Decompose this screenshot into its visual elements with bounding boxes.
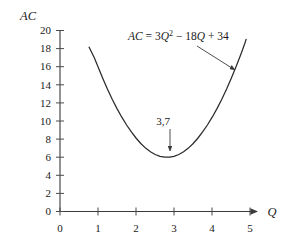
vertex-label: 3,7	[156, 115, 170, 127]
y-tick-label: 4	[46, 169, 52, 181]
ac-curve	[89, 39, 246, 157]
equation-lhs: AC	[127, 30, 143, 42]
y-axis-title: AC	[19, 9, 37, 23]
y-tick-label: 10	[40, 115, 52, 127]
x-axis-title: Q	[267, 205, 276, 219]
average-cost-chart: 0 2 4 6 8 10 12 14 16 18 20 0 1 2 3	[0, 0, 292, 249]
x-tick-label: 2	[133, 222, 139, 234]
x-tick-label: 3	[171, 222, 177, 234]
y-tick-label: 12	[40, 97, 51, 109]
y-tick-label: 14	[40, 79, 52, 91]
x-tick-label: 1	[95, 222, 101, 234]
y-tick-label: 16	[40, 60, 52, 72]
y-axis-tick-labels: 0 2 4 6 8 10 12 14 16 18 20	[40, 24, 52, 217]
y-tick-label: 18	[40, 42, 52, 54]
equation-tail: + 34	[205, 30, 229, 42]
y-tick-label: 8	[46, 133, 52, 145]
y-tick-label: 20	[40, 24, 52, 36]
chart-figure: 0 2 4 6 8 10 12 14 16 18 20 0 1 2 3	[0, 0, 292, 249]
y-tick-label: 2	[46, 187, 52, 199]
x-tick-label: 5	[247, 222, 253, 234]
y-tick-label: 6	[46, 151, 52, 163]
equation-pointer-arrow	[197, 46, 235, 70]
y-tick-label: 0	[46, 205, 52, 217]
x-tick-label: 4	[209, 222, 215, 234]
equation-mid: − 18	[173, 30, 197, 42]
x-axis-tick-labels: 0 1 2 3 4 5	[57, 222, 253, 234]
equation-eq: = 3	[143, 30, 161, 42]
equation-label: AC = 3Q2 − 18Q + 34	[127, 29, 229, 43]
x-tick-label: 0	[57, 222, 63, 234]
